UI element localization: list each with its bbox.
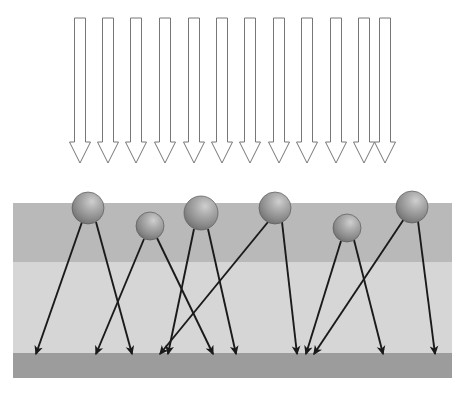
particle-3 [184,196,218,230]
scattering-diagram [0,0,473,398]
diagram-canvas [0,0,473,398]
particle-2 [136,212,164,240]
particle-5 [333,214,361,242]
particle-1 [72,192,104,224]
substrate-bottom-layer [13,353,452,378]
particle-6 [396,191,428,223]
particle-4 [259,192,291,224]
